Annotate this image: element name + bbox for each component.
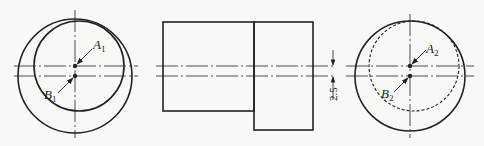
label-a1: A1 — [92, 37, 105, 54]
dimension-value: 2.5 — [327, 87, 339, 101]
point-b1 — [73, 74, 77, 78]
point-a1 — [73, 64, 77, 68]
drawing-canvas: A1 B1 2.5 A2 B2 — [0, 0, 484, 146]
right-end-view — [346, 14, 474, 138]
left-cylinder — [163, 22, 254, 111]
label-b1: B1 — [44, 87, 56, 104]
leader-b2 — [394, 78, 408, 92]
label-a2: A2 — [425, 41, 438, 58]
leader-a2 — [412, 50, 426, 64]
front-view — [156, 22, 336, 130]
point-b2 — [408, 74, 412, 78]
left-end-view — [14, 10, 138, 138]
point-a2 — [408, 64, 412, 68]
leader-b1 — [58, 78, 73, 93]
label-b2: B2 — [381, 86, 393, 103]
technical-drawing: A1 B1 2.5 A2 B2 — [0, 0, 484, 146]
leader-a1 — [77, 49, 92, 64]
